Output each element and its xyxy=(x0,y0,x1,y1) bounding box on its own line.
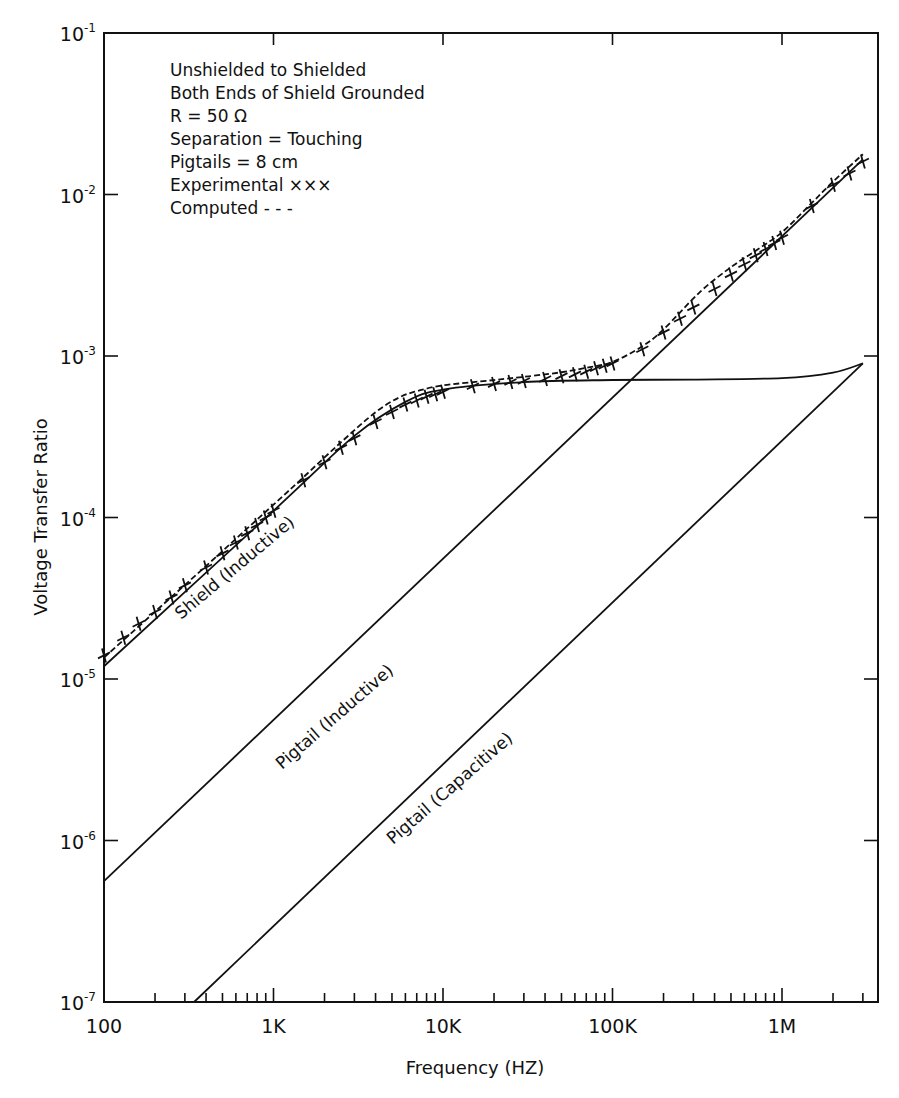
y-tick-label: 10-3 xyxy=(60,344,96,368)
experimental-point xyxy=(674,312,686,326)
y-tick-label: 10-5 xyxy=(60,667,96,691)
annotation-line: Pigtails = 8 cm xyxy=(170,152,298,172)
y-tick-label: 10-2 xyxy=(60,183,96,207)
curve-pigtail-capacitive xyxy=(194,363,863,1002)
annotation-line: R = 50 Ω xyxy=(170,106,247,126)
experimental-point xyxy=(133,617,145,631)
annotation-line: Both Ends of Shield Grounded xyxy=(170,83,425,103)
experimental-point xyxy=(857,155,869,169)
curve-shield-inductive xyxy=(104,363,863,666)
annotation-line: Experimental ××× xyxy=(170,175,332,195)
annotation-line: Separation = Touching xyxy=(170,129,363,149)
y-tick-label: 10-7 xyxy=(60,990,96,1014)
x-tick-label: 1K xyxy=(261,1015,286,1037)
y-tick-label: 10-6 xyxy=(60,829,96,853)
experimental-point xyxy=(709,282,721,296)
annotation-line: Unshielded to Shielded xyxy=(170,60,366,80)
x-tick-label: 1M xyxy=(768,1015,796,1037)
x-tick-label: 100K xyxy=(588,1015,637,1037)
x-tick-label: 100 xyxy=(86,1015,122,1037)
y-tick-label: 10-4 xyxy=(60,506,96,530)
chart: 1001K10K100K1M 10-110-210-310-410-510-61… xyxy=(0,0,899,1098)
curve-label: Pigtail (Capacitive) xyxy=(383,728,517,848)
curve-label: Shield (Inductive) xyxy=(171,512,298,623)
curve-label: Pigtail (Inductive) xyxy=(272,660,398,773)
annotation-block: Unshielded to ShieldedBoth Ends of Shiel… xyxy=(170,60,425,218)
x-axis-title: Frequency (HZ) xyxy=(406,1057,545,1078)
y-tick-label: 10-1 xyxy=(60,21,96,45)
experimental-point xyxy=(117,631,129,645)
curve-labels: Shield (Inductive)Pigtail (Inductive)Pig… xyxy=(171,512,517,848)
y-axis-title: Voltage Transfer Ratio xyxy=(30,418,51,616)
annotation-line: Computed - - - xyxy=(170,198,293,218)
curve-pigtail-inductive xyxy=(104,159,863,881)
experimental-point xyxy=(687,300,699,314)
x-tick-label: 10K xyxy=(425,1015,462,1037)
experimental-point xyxy=(179,578,191,592)
